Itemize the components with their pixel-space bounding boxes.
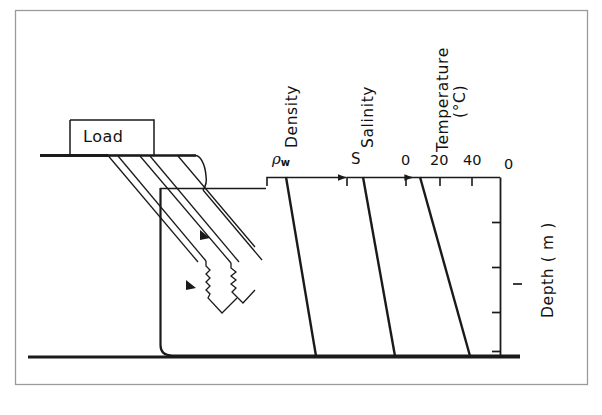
chute-curved-lip [196, 156, 206, 191]
chute-lip-edge-2 [203, 190, 262, 260]
profile-salinity [347, 177, 412, 356]
chute-break-zigzag-outer [231, 263, 255, 303]
density-symbol-subscript: w [281, 157, 290, 168]
salinity-axis-label: Salinity [359, 86, 377, 148]
salinity-symbol: S [351, 150, 361, 168]
figure-canvas: Load Density ρw Salinity S Temperature (… [0, 0, 602, 415]
profile-density [267, 177, 346, 356]
density-axis-bracket [267, 178, 346, 187]
depth-axis-label: Depth ( m ) [539, 222, 557, 318]
temperature-tick-label-0: 0 [401, 152, 410, 168]
depth-axis [492, 178, 522, 357]
figure-frame [16, 11, 588, 385]
profile-temperature [406, 177, 500, 356]
density-axis-label: Density [283, 85, 301, 148]
chute-wall-mid-b [150, 156, 239, 262]
depth-origin-label: 0 [504, 156, 513, 172]
diagram-vector [0, 0, 602, 415]
density-symbol-base: ρ [272, 150, 281, 168]
flow-arrowhead-lower [186, 280, 196, 290]
basin-wall [161, 188, 521, 356]
density-curve [286, 177, 316, 356]
temperature-axis-label: Temperature [434, 47, 452, 152]
temperature-units-label: (°C) [451, 85, 469, 118]
salinity-axis-bracket [347, 178, 412, 187]
density-symbol: ρw [272, 150, 290, 168]
temperature-tick-label-20: 20 [430, 152, 448, 168]
load-label: Load [83, 127, 123, 146]
temperature-curve [420, 177, 470, 356]
temperature-tick-label-40: 40 [463, 152, 481, 168]
chute-lip-edge [178, 156, 255, 247]
chute-wall-inner-a [118, 156, 206, 261]
salinity-curve [363, 177, 395, 356]
